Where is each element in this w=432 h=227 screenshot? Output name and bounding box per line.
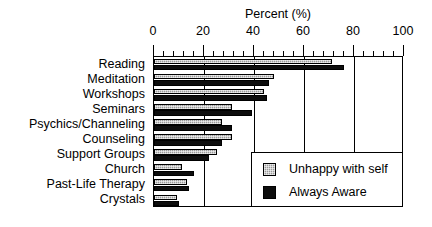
x-tick-label: 0: [150, 24, 157, 38]
tick-major: [403, 45, 404, 56]
x-tick-label: 20: [196, 24, 210, 38]
bar-aware: [154, 155, 209, 161]
x-axis-tick-labels: 020406080100: [0, 24, 432, 40]
bar-unhappy: [154, 74, 274, 80]
bar-aware: [154, 95, 267, 101]
bar-unhappy: [154, 195, 177, 201]
y-category-label: Church: [105, 163, 145, 176]
bar-unhappy: [154, 89, 264, 95]
bar-aware: [154, 110, 252, 116]
tick-major: [153, 45, 154, 56]
legend-swatch-icon-aware: [263, 186, 276, 199]
y-category-label: Seminars: [92, 102, 145, 115]
y-category-label: Crystals: [100, 193, 145, 206]
bar-aware: [154, 80, 269, 86]
y-category-label: Reading: [98, 57, 145, 70]
x-tick-label: 80: [346, 24, 360, 38]
y-category-label: Meditation: [87, 72, 145, 85]
y-axis-category-labels: ReadingMeditationWorkshopsSeminarsPsychi…: [0, 56, 149, 207]
y-category-label: Past-Life Therapy: [47, 178, 145, 191]
bar-aware: [154, 125, 232, 131]
y-category-label: Psychics/Channeling: [29, 117, 145, 130]
tick-major: [303, 45, 304, 56]
bar-unhappy: [154, 164, 182, 170]
bar-unhappy: [154, 134, 232, 140]
legend-swatch-icon-unhappy: [263, 163, 276, 176]
tick-major: [203, 45, 204, 56]
bar-aware: [154, 171, 194, 177]
chart-legend: Unhappy with self Always Aware: [251, 152, 403, 207]
bar-aware: [154, 201, 179, 207]
tick-major: [253, 45, 254, 56]
bar-unhappy: [154, 179, 187, 185]
bar-aware: [154, 65, 344, 71]
y-category-label: Workshops: [83, 87, 145, 100]
legend-entry-always-aware: Always Aware: [263, 184, 367, 200]
bar-unhappy: [154, 104, 232, 110]
bar-aware: [154, 140, 222, 146]
x-tick-label: 100: [393, 24, 414, 38]
tick-major: [353, 45, 354, 56]
bar-aware: [154, 186, 189, 192]
x-tick-label: 60: [296, 24, 310, 38]
bar-unhappy: [154, 119, 222, 125]
y-category-label: Counseling: [82, 133, 145, 146]
legend-label-unhappy: Unhappy with self: [289, 162, 388, 176]
legend-entry-unhappy-with-self: Unhappy with self: [263, 161, 388, 177]
x-tick-label: 40: [246, 24, 260, 38]
bar-unhappy: [154, 149, 217, 155]
bar-unhappy: [154, 59, 332, 65]
legend-label-aware: Always Aware: [289, 185, 367, 199]
y-category-label: Support Groups: [57, 148, 145, 161]
chart-figure: Percent (%) 020406080100 ReadingMeditati…: [0, 0, 432, 227]
x-axis-title: Percent (%): [153, 7, 403, 21]
x-axis-tick-marks: [153, 44, 404, 56]
